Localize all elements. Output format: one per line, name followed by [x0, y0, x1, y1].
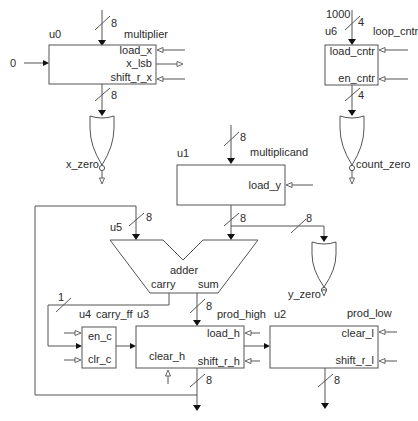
adder-port-sum: sum: [198, 278, 219, 290]
multiplier-const-input: 0: [10, 57, 16, 69]
input-arrow-icon: [379, 77, 385, 82]
port-load-cntr: load_cntr: [330, 45, 376, 57]
prod-high-bus-out-width: 8: [206, 374, 212, 386]
multiplier-bus-in-width: 8: [111, 17, 117, 29]
port-shift-r-x: shift_r_x: [110, 71, 152, 83]
carry-ff-id: u4: [79, 308, 91, 320]
multiplicand-id: u1: [177, 147, 189, 159]
input-arrow-icon: [245, 331, 251, 336]
count-zero-label: count_zero: [356, 158, 410, 170]
port-load-y: load_y: [249, 179, 282, 191]
loop-counter-name: loop_cntr: [373, 25, 418, 37]
x-zero-nor-gate: x_zero: [66, 116, 114, 184]
adder-carry-width: 1: [58, 291, 64, 303]
loop-counter-bus-in-width: 4: [358, 16, 364, 28]
port-shift-r-l: shift_r_l: [335, 354, 374, 366]
y-zero-bus-width: 8: [306, 212, 312, 224]
multiplier-block: 8 u0 multiplier 0 load_x x_lsb shift_r_x…: [10, 10, 185, 116]
port-clr-c: clr_c: [88, 353, 112, 365]
input-arrow-icon: [379, 359, 385, 364]
loop-counter-const-input: 1000: [326, 8, 350, 20]
adder-name: adder: [170, 264, 198, 276]
count-zero-nor-gate: count_zero: [340, 116, 410, 184]
input-arrow-icon: [75, 358, 81, 363]
port-clear-l: clear_l: [342, 327, 374, 339]
adder-port-carry: carry: [151, 278, 176, 290]
carry-ff-block: u4 carry_ff en_c clr_c: [64, 308, 136, 368]
input-arrow-icon: [379, 48, 385, 53]
port-en-c: en_c: [88, 330, 112, 342]
y-zero-nor-gate: y_zero: [288, 242, 336, 300]
port-shift-r-h: shift_r_h: [198, 355, 240, 367]
prod-low-name: prod_low: [347, 307, 392, 319]
input-arrow-icon: [157, 48, 163, 53]
output-arrow-icon: [100, 178, 105, 184]
adder-sum-width: 8: [206, 300, 212, 312]
prod-high-name: prod_high: [217, 308, 266, 320]
multiplicand-bus-out-width: 8: [240, 212, 246, 224]
input-arrow-icon: [286, 183, 292, 188]
multiplicand-block: 8 u1 multiplicand load_y 8 8: [177, 125, 328, 242]
multiplicand-name: multiplicand: [250, 146, 308, 158]
port-en-cntr: en_cntr: [338, 72, 375, 84]
adder-bus-in-width: 8: [146, 211, 152, 223]
port-load-x: load_x: [120, 44, 153, 56]
prod-high-block: u3 prod_high load_h clear_h shift_r_h 8: [136, 308, 270, 411]
y-zero-label: y_zero: [288, 288, 321, 300]
carry-ff-name: carry_ff: [96, 308, 133, 320]
port-load-h: load_h: [207, 327, 240, 339]
loop-counter-block: 1000 4 u6 loop_cntr load_cntr en_cntr 4: [325, 8, 418, 116]
output-arrow-icon: [350, 178, 355, 184]
multiplier-id: u0: [49, 28, 61, 40]
multiplicand-bus-in-width: 8: [240, 131, 246, 143]
loop-counter-bus-out-width: 4: [358, 89, 364, 101]
output-arrow-icon: [322, 290, 327, 296]
prod-high-id: u3: [137, 308, 149, 320]
adder-id: u5: [110, 221, 122, 233]
input-arrow-icon: [75, 331, 81, 336]
multiplier-bus-out-width: 8: [111, 89, 117, 101]
loop-counter-id: u6: [325, 25, 337, 37]
input-arrow-icon: [245, 359, 251, 364]
prod-low-id: u2: [274, 308, 286, 320]
prod-low-block: u2 prod_low clear_l shift_r_l 8: [270, 307, 397, 409]
output-arrow-icon: [177, 62, 183, 67]
datapath-diagram: 8 u0 multiplier 0 load_x x_lsb shift_r_x…: [0, 0, 418, 421]
prod-low-bus-out-width: 8: [334, 374, 340, 386]
input-arrow-icon: [157, 77, 163, 82]
port-clear-h: clear_h: [149, 350, 185, 362]
input-arrow-icon: [166, 370, 171, 376]
x-zero-label: x_zero: [66, 158, 99, 170]
input-arrow-icon: [379, 330, 385, 335]
multiplier-name: multiplier: [124, 28, 168, 40]
port-x-lsb: x_lsb: [126, 57, 152, 69]
